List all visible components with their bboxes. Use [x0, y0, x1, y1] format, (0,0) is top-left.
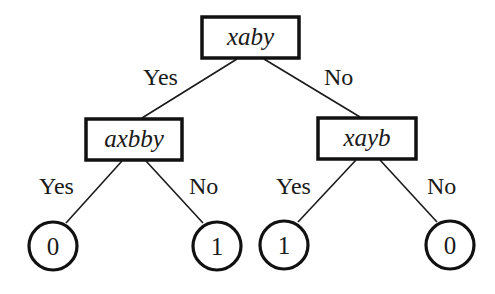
node-root-label: xaby	[226, 23, 275, 50]
leaf-right-no-value: 0	[444, 232, 457, 259]
edge-left-yes	[66, 161, 122, 223]
leaf-left-no: 1	[193, 222, 241, 270]
edge-label-left-yes: Yes	[39, 173, 74, 199]
leaf-left-no-value: 1	[211, 233, 224, 260]
edge-label-root-yes: Yes	[143, 64, 178, 90]
edge-label-root-no: No	[324, 64, 353, 90]
decision-tree-diagram: Yes No Yes No Yes No xaby axbby xayb 0 1…	[0, 0, 495, 294]
leaf-left-yes: 0	[29, 222, 77, 270]
node-right: xayb	[318, 118, 416, 159]
node-right-label: xayb	[342, 124, 390, 151]
leaf-right-yes-value: 1	[278, 232, 291, 259]
edge-label-right-no: No	[427, 173, 456, 199]
node-left-label: axbby	[104, 125, 165, 152]
edge-label-right-yes: Yes	[276, 173, 311, 199]
edge-label-left-no: No	[189, 173, 218, 199]
leaf-right-yes: 1	[260, 221, 308, 269]
leaf-right-no: 0	[426, 221, 474, 269]
node-left: axbby	[86, 119, 182, 160]
leaf-left-yes-value: 0	[47, 233, 60, 260]
node-root: xaby	[202, 17, 299, 58]
